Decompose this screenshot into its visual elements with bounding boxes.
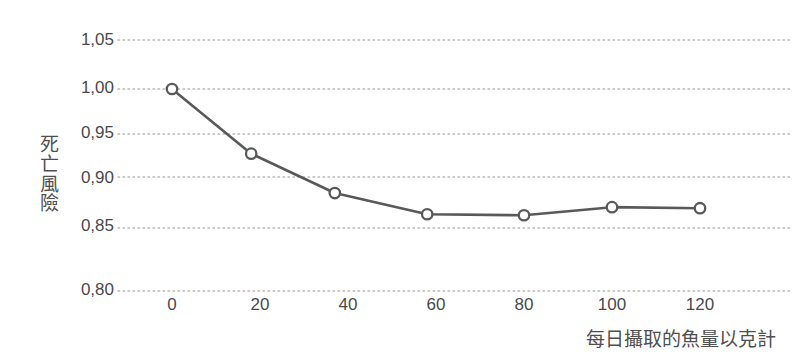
x-tick-label: 100 xyxy=(598,295,626,315)
data-point xyxy=(695,203,705,213)
x-tick-label: 40 xyxy=(339,295,358,315)
x-axis-title: 每日攝取的魚量以克計 xyxy=(586,324,776,351)
plot-area xyxy=(0,0,804,362)
x-tick-label: 20 xyxy=(251,295,270,315)
x-tick-label: 120 xyxy=(686,295,714,315)
data-point xyxy=(330,188,340,198)
data-point xyxy=(167,84,177,94)
data-point xyxy=(422,209,432,219)
x-tick-label: 60 xyxy=(427,295,446,315)
x-tick-label: 0 xyxy=(167,295,176,315)
x-tick-label: 80 xyxy=(515,295,534,315)
data-point xyxy=(607,202,617,212)
data-point xyxy=(246,148,256,158)
gridlines xyxy=(118,40,790,291)
data-point xyxy=(519,210,529,220)
data-point-markers xyxy=(167,84,705,221)
chart-container: 死 亡 風 險 1,05 1,00 0,95 0,90 0,85 0,80 0 … xyxy=(0,0,804,362)
